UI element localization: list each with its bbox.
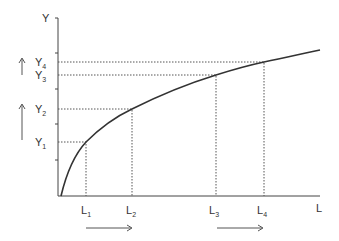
horizontal-arrow-icon xyxy=(86,225,132,231)
production-function-diagram: Y Y1 Y2 Y3 Y4 L1 L2 L3 L4 L xyxy=(0,0,339,241)
horizontal-arrow-icon xyxy=(217,225,263,231)
vertical-arrow-icon xyxy=(19,104,25,140)
production-curve xyxy=(61,50,320,196)
l3-label: L3 xyxy=(209,204,219,218)
l4-label: L4 xyxy=(257,204,267,218)
l1-label: L1 xyxy=(81,204,91,218)
x-axis-label: L xyxy=(316,202,322,214)
y2-label: Y2 xyxy=(35,103,46,117)
vertical-arrow-icon xyxy=(19,58,25,75)
l2-label: L2 xyxy=(126,204,136,218)
y-axis-label: Y xyxy=(42,12,50,24)
axes xyxy=(55,18,320,196)
guide-lines xyxy=(58,62,264,196)
y1-label: Y1 xyxy=(35,136,46,150)
y4-label: Y4 xyxy=(35,56,46,70)
y3-label: Y3 xyxy=(35,69,46,83)
